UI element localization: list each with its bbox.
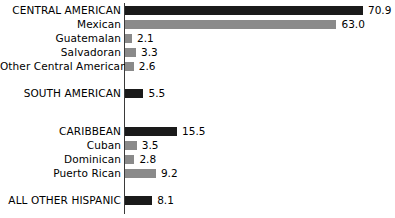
bar — [125, 62, 134, 71]
bar-value-label: 2.1 — [137, 31, 154, 45]
bar-value-label: 15.5 — [182, 124, 205, 138]
bar-row: ALL OTHER HISPANIC8.1 — [0, 193, 395, 207]
bar-row-label: CENTRAL AMERICAN — [0, 3, 121, 17]
bar-value-label: 70.9 — [368, 3, 391, 17]
bar-row-label: Mexican — [0, 17, 121, 31]
bar-row-label: Guatemalan — [0, 31, 121, 45]
bar-row-label: CARIBBEAN — [0, 124, 121, 138]
bar-row: CENTRAL AMERICAN70.9 — [0, 3, 395, 17]
bar — [125, 48, 136, 57]
bar-value-label: 63.0 — [341, 17, 364, 31]
bar-row: Dominican2.8 — [0, 152, 395, 166]
bar-value-label: 3.5 — [142, 138, 159, 152]
bar-row: CARIBBEAN15.5 — [0, 124, 395, 138]
bar-value-label: 3.3 — [141, 45, 158, 59]
bar — [125, 6, 363, 15]
bar-value-label: 9.2 — [161, 166, 178, 180]
bar-row-label: ALL OTHER HISPANIC — [0, 193, 121, 207]
bar-row-label: Cuban — [0, 138, 121, 152]
bar-row-label: Salvadoran — [0, 45, 121, 59]
bar-row-label: SOUTH AMERICAN — [0, 86, 121, 100]
bar-row: Mexican63.0 — [0, 17, 395, 31]
bar — [125, 155, 134, 164]
bar-row-label: Dominican — [0, 152, 121, 166]
bar-value-label: 8.1 — [157, 193, 174, 207]
bar-value-label: 2.6 — [139, 59, 156, 73]
bar-row: Guatemalan2.1 — [0, 31, 395, 45]
bar — [125, 127, 177, 136]
bar-row-label: Other Central American — [0, 59, 121, 73]
bar — [125, 89, 143, 98]
horizontal-bar-chart: CENTRAL AMERICAN70.9Mexican63.0Guatemala… — [0, 0, 395, 218]
bar — [125, 169, 156, 178]
bar-value-label: 5.5 — [148, 86, 165, 100]
bar-row: Puerto Rican9.2 — [0, 166, 395, 180]
bar — [125, 196, 152, 205]
bar — [125, 34, 132, 43]
bar — [125, 20, 336, 29]
bar-row: Other Central American2.6 — [0, 59, 395, 73]
bar-value-label: 2.8 — [139, 152, 156, 166]
bar-row: SOUTH AMERICAN5.5 — [0, 86, 395, 100]
bar-row: Cuban3.5 — [0, 138, 395, 152]
bar-row-label: Puerto Rican — [0, 166, 121, 180]
bar — [125, 141, 137, 150]
bar-row: Salvadoran3.3 — [0, 45, 395, 59]
